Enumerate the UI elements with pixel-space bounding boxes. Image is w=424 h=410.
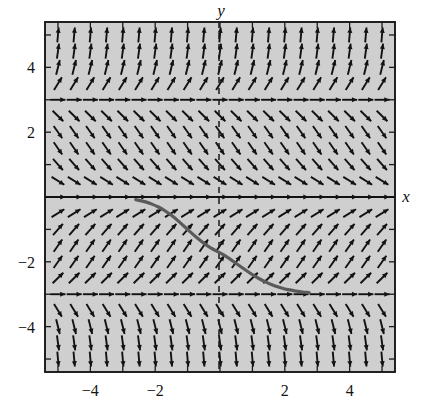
y-tick-label: 4: [27, 59, 35, 76]
slope-field-figure: −4−22442−2−4yx: [0, 0, 424, 410]
x-tick-label: −2: [147, 382, 164, 399]
y-tick-label: −4: [18, 319, 35, 336]
y-tick-label: 2: [27, 124, 35, 141]
y-axis-label: y: [215, 1, 225, 20]
x-tick-label: −4: [82, 382, 99, 399]
slope-field-svg: −4−22442−2−4yx: [0, 0, 424, 410]
x-axis-label: x: [401, 187, 410, 206]
y-tick-label: −2: [18, 254, 35, 271]
x-tick-label: 4: [346, 382, 354, 399]
x-tick-label: 2: [281, 382, 289, 399]
